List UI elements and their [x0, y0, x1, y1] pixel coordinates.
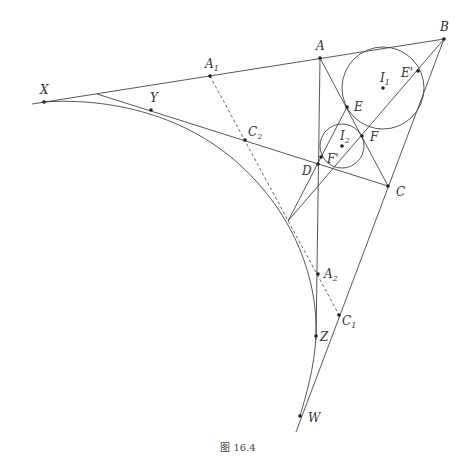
line-AD [316, 58, 320, 340]
point-B [442, 37, 446, 41]
label-F: F [369, 130, 379, 144]
point-A2 [316, 272, 320, 276]
conic-curve [44, 101, 316, 416]
figure-caption: 图 16.4 [220, 442, 255, 453]
label-I1: I1 [379, 71, 390, 87]
label-X: X [39, 83, 49, 97]
point-A1 [208, 74, 212, 78]
label-Eprime: E' [400, 66, 413, 80]
point-Z [314, 334, 318, 338]
label-Fprime: F' [326, 152, 339, 166]
point-I2 [340, 144, 344, 148]
point-C1 [337, 313, 341, 317]
point-Y [149, 108, 153, 112]
points-layer: ABCDEFE'F'I1I2XYA1C2A2C1ZW [39, 20, 449, 425]
point-D [316, 162, 320, 166]
label-E: E [353, 100, 363, 114]
label-W: W [308, 411, 322, 425]
label-C: C [396, 185, 405, 199]
line-BF [288, 39, 444, 221]
point-W [298, 414, 302, 418]
geometry-figure: ABCDEFE'F'I1I2XYA1C2A2C1ZW 图 16.4 [0, 0, 474, 471]
point-Fprime [319, 155, 323, 159]
label-I2: I2 [339, 129, 350, 145]
label-B: B [439, 20, 449, 34]
line-AC [320, 58, 388, 186]
label-Z: Z [319, 330, 329, 344]
label-Y: Y [150, 91, 159, 105]
label-C1: C1 [342, 314, 356, 330]
label-D: D [301, 164, 312, 178]
point-X [42, 100, 46, 104]
label-C2: C2 [248, 125, 262, 141]
point-F [360, 134, 364, 138]
label-A1: A1 [204, 57, 219, 73]
label-A: A [315, 39, 325, 53]
point-Eprime [416, 69, 420, 73]
point-E [345, 105, 349, 109]
point-A [318, 56, 322, 60]
point-C2 [243, 138, 247, 142]
point-C [386, 184, 390, 188]
line-BW [296, 39, 444, 432]
label-A2: A2 [323, 267, 338, 283]
